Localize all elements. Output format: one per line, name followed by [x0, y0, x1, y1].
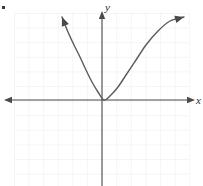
- x-axis-label: x: [195, 94, 201, 106]
- y-axis-label: y: [104, 1, 110, 13]
- x-axis-left-arrow-icon: [4, 97, 12, 103]
- x-axis-right-arrow-icon: [187, 97, 195, 103]
- graph-canvas: y x: [0, 0, 203, 186]
- stray-speck-artifact: [2, 6, 5, 9]
- graph-figure: y x: [0, 0, 203, 186]
